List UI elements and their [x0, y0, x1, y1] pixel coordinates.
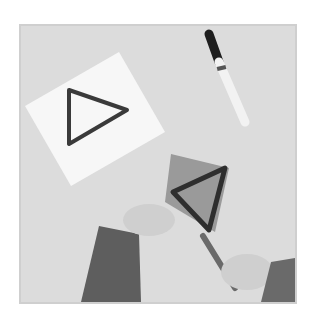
- paper-card: [25, 52, 165, 186]
- right-hand: [221, 254, 273, 290]
- left-sleeve: [81, 226, 141, 302]
- photo: [19, 24, 297, 304]
- left-hand: [123, 204, 175, 236]
- marker: [209, 34, 245, 122]
- photo-scene: [21, 26, 295, 302]
